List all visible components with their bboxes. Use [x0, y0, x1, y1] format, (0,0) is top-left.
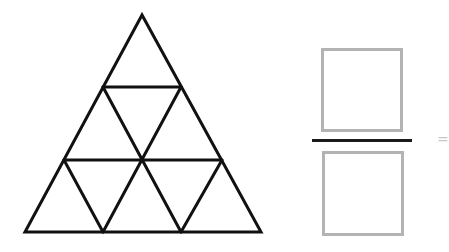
denominator-answer-box[interactable] [322, 151, 404, 236]
diagonal-down-2 [64, 160, 103, 232]
numerator-answer-box[interactable] [321, 48, 403, 132]
diagonal-up-2 [181, 160, 222, 232]
cut-off-equals-mark: = [437, 132, 449, 146]
fraction-bar [312, 139, 412, 142]
outer-triangle [25, 15, 261, 232]
